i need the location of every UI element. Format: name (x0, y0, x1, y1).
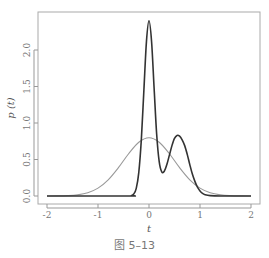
x-tick-label: 1 (197, 210, 203, 220)
plot-frame (38, 12, 260, 204)
density-chart: -2-1012 0.00.51.01.52.0 t p (t) (0, 0, 269, 258)
bimodal-density-curve (47, 21, 251, 196)
y-axis: 0.00.51.01.52.0 (22, 43, 38, 204)
y-tick-label: 1.5 (22, 79, 32, 94)
x-tick-label: -1 (94, 210, 103, 220)
normal-density-curve (47, 138, 251, 196)
data-series (47, 21, 251, 196)
x-tick-label: 2 (248, 210, 254, 220)
x-tick-label: -2 (43, 210, 52, 220)
x-axis-label: t (147, 223, 152, 234)
y-tick-label: 2.0 (22, 43, 32, 58)
figure-caption: 图 5–13 (0, 236, 269, 252)
x-tick-label: 0 (146, 210, 152, 220)
x-axis: -2-1012 (43, 204, 254, 220)
y-axis-label: p (t) (5, 97, 16, 119)
y-tick-label: 0.5 (22, 152, 32, 167)
y-tick-label: 1.0 (22, 116, 32, 131)
y-tick-label: 0.0 (22, 189, 32, 204)
